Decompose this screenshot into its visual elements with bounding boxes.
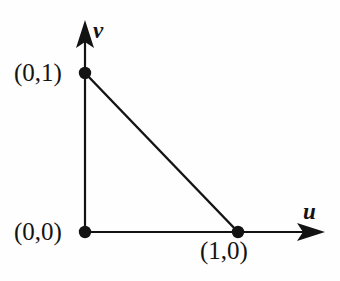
vertex-label-origin: (0,0) (14, 219, 62, 244)
vertex-dot-origin (79, 226, 91, 238)
vertex-label-unit-u: (1,0) (200, 238, 248, 263)
v-axis-label: v (93, 19, 103, 42)
vertex-dot-unit-v (79, 67, 91, 79)
triangle-hypotenuse (85, 73, 238, 232)
reference-triangle-figure: v u (0,0) (0,1) (1,0) (0, 0, 340, 281)
vertex-label-unit-v: (0,1) (14, 60, 62, 85)
u-axis-label: u (303, 200, 316, 223)
